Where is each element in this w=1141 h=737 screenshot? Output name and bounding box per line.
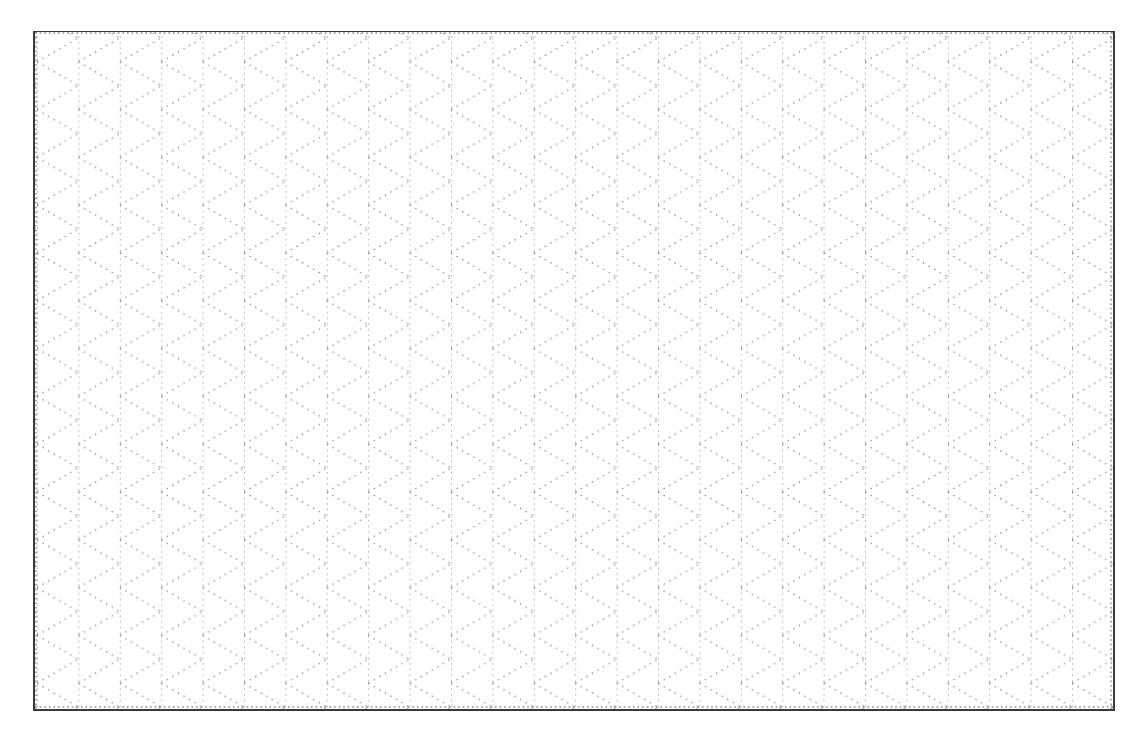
isometric-grid-sheet xyxy=(33,31,1115,711)
isometric-grid-pattern xyxy=(35,32,1113,709)
